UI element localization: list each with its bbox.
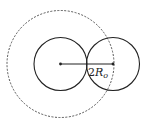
adjacent-center-dot (112, 63, 115, 66)
distance-label: 2Ro (88, 66, 108, 80)
central-center-dot (59, 63, 62, 66)
two-circles-diagram: 2Ro (0, 0, 149, 123)
